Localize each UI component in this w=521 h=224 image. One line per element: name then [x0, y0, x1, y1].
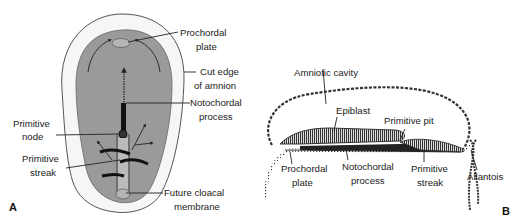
- epiblast-shape: [280, 128, 405, 144]
- label-primitive-streak-2: streak: [30, 167, 56, 178]
- label-primitive-pit: Primitive pit: [384, 115, 434, 126]
- panel-letter-b: B: [502, 205, 510, 217]
- label-primitive-streak-b: Primitive: [411, 163, 448, 174]
- label-cut-edge-2: of amnion: [194, 80, 236, 91]
- label-notochordal-process-2: process: [199, 111, 233, 122]
- label-cut-edge: Cut edge: [200, 66, 239, 77]
- label-prochordal-plate: Prochordal: [180, 27, 226, 38]
- panel-letter-a: A: [9, 201, 17, 213]
- label-primitive-node-2: node: [22, 131, 43, 142]
- label-amniotic-cavity: Amniotic cavity: [294, 67, 358, 78]
- label-primitive-streak-b-2: streak: [417, 177, 443, 188]
- label-future-cloacal-2: membrane: [174, 201, 220, 212]
- label-notochordal-process-b-2: process: [351, 175, 385, 186]
- label-primitive-streak: Primitive: [22, 153, 59, 164]
- primitive-node-shape: [119, 130, 127, 138]
- label-epiblast: Epiblast: [336, 105, 370, 116]
- mesoderm-stroke: [102, 175, 124, 177]
- label-notochordal-process-b: Notochordal: [342, 161, 394, 172]
- label-allantois: Allantois: [467, 171, 503, 182]
- panel-a: Prochordal plate Cut edge of amnion Noto…: [9, 14, 242, 213]
- label-prochordal-plate-b: Prochordal: [281, 163, 327, 174]
- cloacal-membrane-shape: [116, 189, 130, 199]
- notochordal-process-shape: [121, 103, 126, 133]
- label-prochordal-plate-2: plate: [196, 41, 217, 52]
- prochordal-plate-shape: [112, 39, 130, 48]
- label-prochordal-plate-b-2: plate: [292, 177, 313, 188]
- streak-groove: [118, 138, 128, 192]
- label-primitive-node: Primitive: [13, 118, 50, 129]
- label-future-cloacal: Future cloacal: [164, 187, 224, 198]
- label-notochordal-process: Notochordal: [190, 97, 242, 108]
- embryo-diagram: Prochordal plate Cut edge of amnion Noto…: [0, 0, 521, 224]
- panel-b: Amniotic cavity Epiblast Primitive pit P…: [265, 67, 510, 217]
